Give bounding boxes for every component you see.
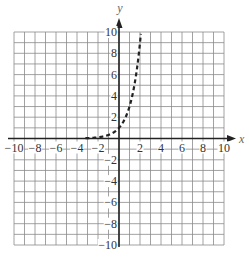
x-tick-label: −6 [50, 141, 63, 155]
y-tick-label: 4 [111, 89, 117, 103]
x-tick-label: −8 [29, 141, 42, 155]
y-axis-label: y [116, 1, 123, 15]
x-tick-label: 8 [200, 141, 206, 155]
x-axis-label: x [238, 132, 245, 146]
x-tick-label: 6 [179, 141, 185, 155]
axes [8, 18, 236, 247]
y-tick-label: −8 [104, 217, 117, 231]
y-tick-label: 8 [111, 46, 117, 60]
x-tick-label: 2 [137, 141, 143, 155]
y-tick-label: 6 [111, 68, 117, 82]
y-tick-label: 10 [105, 25, 117, 39]
x-tick-label: −10 [5, 141, 24, 155]
y-tick-label: 2 [111, 110, 117, 124]
y-tick-label: −6 [104, 195, 117, 209]
x-tick-label: −4 [71, 141, 84, 155]
y-tick-label: −10 [98, 238, 117, 252]
y-tick-label: −4 [104, 174, 117, 188]
x-tick-label: −2 [92, 141, 105, 155]
x-tick-label: 10 [218, 141, 230, 155]
coordinate-plane: −10−8−6−4−2246810108642−2−4−6−8−10 x y [0, 0, 249, 257]
x-tick-label: 4 [158, 141, 164, 155]
y-tick-label: −2 [104, 153, 117, 167]
